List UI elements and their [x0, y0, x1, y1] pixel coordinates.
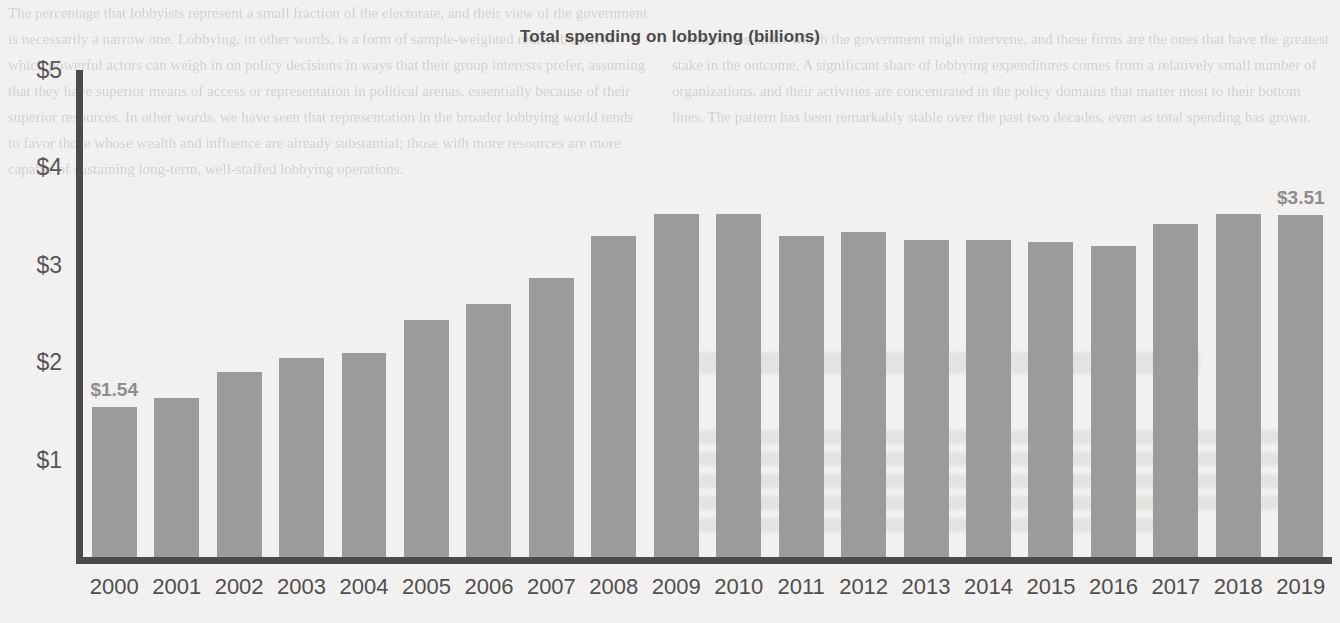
bar-2014[interactable] [966, 240, 1011, 557]
bar-slot-2010[interactable] [708, 70, 770, 557]
bar-2000[interactable] [92, 407, 137, 557]
x-tick-label-2005: 2005 [402, 574, 451, 600]
bar-2018[interactable] [1216, 214, 1261, 557]
x-tick-label-2011: 2011 [778, 574, 825, 600]
x-tick-label-2014: 2014 [964, 574, 1013, 600]
x-tick-label-2007: 2007 [527, 574, 576, 600]
bar-slot-2018[interactable] [1207, 70, 1269, 557]
x-tick-label-2009: 2009 [652, 574, 701, 600]
bar-slot-2001[interactable] [145, 70, 207, 557]
bar-2019[interactable] [1278, 215, 1323, 557]
bar-slot-2011[interactable] [770, 70, 832, 557]
x-tick-label-2010: 2010 [714, 574, 763, 600]
bar-2004[interactable] [342, 353, 387, 557]
bar-2015[interactable] [1028, 242, 1073, 557]
bar-2013[interactable] [904, 240, 949, 557]
bar-slot-2000[interactable]: $1.54 [83, 70, 145, 557]
bar-2012[interactable] [841, 232, 886, 557]
bar-2005[interactable] [404, 320, 449, 557]
bar-value-label-2000: $1.54 [90, 379, 138, 401]
bar-2003[interactable] [279, 358, 324, 557]
y-tick-label-2: $2 [0, 349, 62, 376]
x-tick-label-2003: 2003 [277, 574, 326, 600]
bar-2008[interactable] [591, 236, 636, 557]
bar-slot-2002[interactable] [208, 70, 270, 557]
x-tick-label-2019: 2019 [1276, 574, 1325, 600]
bar-2006[interactable] [466, 304, 511, 557]
bar-2007[interactable] [529, 278, 574, 557]
bar-2016[interactable] [1091, 246, 1136, 557]
x-tick-label-2016: 2016 [1089, 574, 1138, 600]
plot-area: $1.54$3.51 [83, 70, 1332, 557]
bar-slot-2009[interactable] [645, 70, 707, 557]
bar-slot-2004[interactable] [333, 70, 395, 557]
y-tick-label-5: $5 [0, 57, 62, 84]
bar-slot-2015[interactable] [1020, 70, 1082, 557]
y-axis-line [76, 70, 83, 562]
x-tick-label-2013: 2013 [902, 574, 951, 600]
x-tick-label-2017: 2017 [1151, 574, 1200, 600]
bar-slot-2019[interactable]: $3.51 [1270, 70, 1332, 557]
x-axis-line [76, 557, 1332, 564]
bar-slot-2016[interactable] [1082, 70, 1144, 557]
bar-2017[interactable] [1153, 224, 1198, 557]
lobbying-spending-bar-chart: Total spending on lobbying (billions) $5… [0, 0, 1340, 623]
bar-slot-2013[interactable] [895, 70, 957, 557]
x-tick-label-2004: 2004 [340, 574, 389, 600]
x-tick-label-2001: 2001 [152, 574, 201, 600]
bar-slot-2003[interactable] [270, 70, 332, 557]
bar-2011[interactable] [779, 236, 824, 557]
x-tick-label-2012: 2012 [839, 574, 888, 600]
x-tick-label-2000: 2000 [90, 574, 139, 600]
bar-slot-2012[interactable] [832, 70, 894, 557]
bar-2009[interactable] [654, 214, 699, 557]
y-tick-label-1: $1 [0, 446, 62, 473]
bar-slot-2007[interactable] [520, 70, 582, 557]
bar-2001[interactable] [154, 398, 199, 557]
x-tick-label-2002: 2002 [215, 574, 264, 600]
bar-slot-2005[interactable] [395, 70, 457, 557]
x-tick-label-2008: 2008 [589, 574, 638, 600]
y-tick-label-3: $3 [0, 251, 62, 278]
bar-slot-2008[interactable] [583, 70, 645, 557]
chart-title: Total spending on lobbying (billions) [0, 27, 1340, 47]
bar-2002[interactable] [217, 372, 262, 557]
y-tick-label-4: $4 [0, 154, 62, 181]
bar-slot-2006[interactable] [458, 70, 520, 557]
bar-2010[interactable] [716, 214, 761, 557]
x-tick-label-2006: 2006 [464, 574, 513, 600]
bar-slot-2014[interactable] [957, 70, 1019, 557]
x-tick-label-2015: 2015 [1026, 574, 1075, 600]
bar-value-label-2019: $3.51 [1277, 187, 1325, 209]
bar-slot-2017[interactable] [1145, 70, 1207, 557]
x-tick-label-2018: 2018 [1214, 574, 1263, 600]
